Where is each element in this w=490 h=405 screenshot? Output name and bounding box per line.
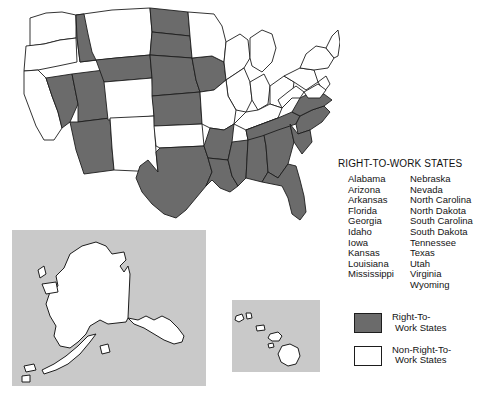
hawaii-inset-panel xyxy=(232,300,320,372)
list-item: Mississippi xyxy=(348,269,410,280)
state-north-dakota xyxy=(150,8,190,36)
hawaii-oahu xyxy=(246,313,252,319)
alaska-mainland xyxy=(46,242,130,348)
state-michigan xyxy=(250,30,276,72)
hawaii-molokai xyxy=(256,325,265,331)
key-label-shaded-line2: Work States xyxy=(395,323,447,334)
state-florida xyxy=(262,164,306,220)
state-oklahoma xyxy=(154,124,204,148)
hawaii-kauai xyxy=(235,314,244,322)
alaska-inset-panel xyxy=(12,230,206,386)
hawaii-maui xyxy=(268,332,282,341)
map-key: Right-To- Work States Non-Right-To- Work… xyxy=(354,312,490,377)
hawaii-lanai xyxy=(268,343,274,348)
hawaii-big-island xyxy=(278,344,300,366)
state-list-right-column: Nebraska Nevada North Carolina North Dak… xyxy=(410,174,490,291)
state-arizona xyxy=(70,118,114,174)
list-item: South Dakota xyxy=(410,227,490,238)
alaska-island-e xyxy=(22,375,30,382)
state-wyoming xyxy=(96,55,152,82)
list-item: Wyoming xyxy=(410,280,490,291)
list-item: Idaho xyxy=(348,227,410,238)
key-row-unshaded: Non-Right-To- Work States xyxy=(354,345,490,367)
key-label-shaded-line1: Right-To- xyxy=(392,311,431,322)
list-item: Alabama xyxy=(348,174,410,185)
state-list: Alabama Arizona Arkansas Florida Georgia… xyxy=(348,174,490,291)
key-label-unshaded-line1: Non-Right-To- xyxy=(392,344,451,355)
key-swatch-shaded xyxy=(354,313,382,333)
alaska-panhandle xyxy=(128,316,184,344)
alaska-island-c xyxy=(100,344,110,354)
legend-block: RIGHT-TO-WORK STATES Alabama Arizona Ark… xyxy=(334,158,490,291)
state-south-dakota xyxy=(150,32,192,58)
us-map xyxy=(0,0,340,232)
key-label-unshaded: Non-Right-To- Work States xyxy=(392,345,451,367)
alaska-island-d xyxy=(24,364,36,372)
list-item: Nebraska xyxy=(410,174,490,185)
state-minnesota xyxy=(188,12,226,62)
key-label-shaded: Right-To- Work States xyxy=(392,312,447,334)
alaska-island-a xyxy=(38,266,46,278)
state-indiana xyxy=(250,74,270,110)
state-list-left-column: Alabama Arizona Arkansas Florida Georgia… xyxy=(348,174,410,291)
key-swatch-unshaded xyxy=(354,346,382,366)
key-row-shaded: Right-To- Work States xyxy=(354,312,490,334)
key-label-unshaded-line2: Work States xyxy=(395,355,451,366)
state-kansas xyxy=(152,92,202,126)
state-colorado xyxy=(104,78,154,120)
legend-title: RIGHT-TO-WORK STATES xyxy=(338,158,490,169)
alaska-island-b xyxy=(42,282,58,294)
